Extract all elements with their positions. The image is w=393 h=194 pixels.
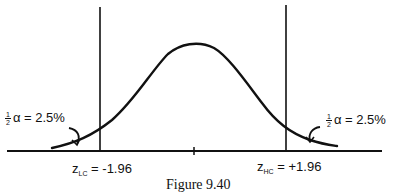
alpha-symbol: α: [13, 110, 21, 125]
upper-critical-value: +1.96: [288, 159, 321, 174]
bell-curve: [52, 44, 337, 148]
normal-distribution-diagram: [0, 0, 393, 194]
half-fraction: 12: [5, 111, 11, 126]
right-tail-value: 2.5%: [356, 112, 386, 127]
lower-critical-label: zLC = -1.96: [72, 162, 132, 177]
alpha-symbol: α: [334, 112, 342, 127]
right-tail-label: 12α = 2.5%: [326, 113, 386, 128]
left-tail-value: 2.5%: [35, 110, 65, 125]
left-tail-label: 12α = 2.5%: [5, 111, 65, 126]
upper-critical-label: zHC = +1.96: [257, 160, 321, 175]
lower-critical-value: -1.96: [102, 161, 132, 176]
figure-caption: Figure 9.40: [166, 177, 231, 193]
right-tail-arrow: [309, 127, 320, 141]
half-fraction: 12: [326, 113, 332, 128]
